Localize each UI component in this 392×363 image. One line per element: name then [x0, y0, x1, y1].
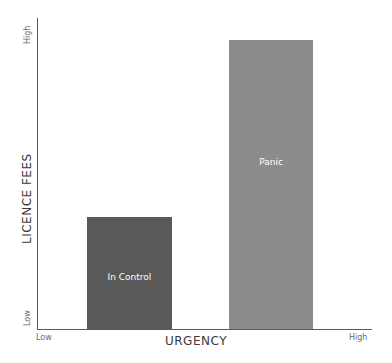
- bar-panic: Panic: [229, 40, 313, 329]
- x-axis-title: URGENCY: [0, 334, 392, 348]
- y-axis-line: [37, 18, 38, 330]
- bar-in-control: In Control: [87, 217, 172, 329]
- bar-label: Panic: [259, 157, 283, 167]
- y-tick-high: High: [23, 26, 32, 44]
- bar-label: In Control: [108, 272, 152, 282]
- y-axis-title: LICENCE FEES: [20, 153, 34, 244]
- x-axis-line: [37, 329, 372, 330]
- chart: In Control Panic High Low Low High URGEN…: [0, 0, 392, 363]
- y-tick-low: Low: [23, 310, 32, 326]
